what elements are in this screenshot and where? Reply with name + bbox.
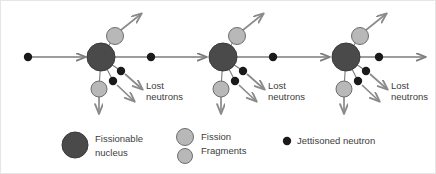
cluster-1-fragment-up-arrow bbox=[121, 14, 141, 30]
legend-swatch-jettisoned-neutron bbox=[283, 137, 291, 145]
legend-item-jettisoned-neutron: Jettisoned neutron bbox=[283, 135, 375, 146]
cluster-3-lost-neutron-arrow-0 bbox=[370, 74, 387, 89]
cluster-3-fragment-up-arrow bbox=[366, 14, 386, 30]
cluster-1-axis-neutron bbox=[147, 53, 155, 61]
legend-label-fission-fragments-line2: Fragments bbox=[201, 145, 247, 156]
cluster-3-axis-neutron bbox=[375, 53, 383, 61]
legend-swatch-fission-fragments-b bbox=[178, 149, 193, 164]
diagram-canvas: LostneutronsLostneutronsLostneutronsFiss… bbox=[1, 1, 436, 174]
legend: FissionablenucleusFissionFragmentsJettis… bbox=[62, 129, 375, 164]
legend-label-jettisoned-neutron-line1: Jettisoned neutron bbox=[297, 135, 375, 146]
cluster-2-jettisoned-neutron-1 bbox=[231, 77, 239, 85]
cluster-1-lost-neutrons-label-line1: Lost bbox=[146, 80, 164, 91]
cluster-2: Lostneutrons bbox=[209, 14, 329, 113]
cluster-3: Lostneutrons bbox=[332, 14, 428, 113]
cluster-3-fissionable-nucleus bbox=[332, 43, 360, 71]
cluster-1-jettisoned-neutron-1 bbox=[109, 77, 117, 85]
cluster-3-lost-neutrons-label-line1: Lost bbox=[391, 80, 409, 91]
cluster-2-fission-fragment-upper bbox=[229, 28, 246, 45]
cluster-2-lost-neutrons-label-line2: neutrons bbox=[268, 91, 305, 102]
cluster-1-lost-neutron-arrow-0 bbox=[125, 74, 142, 89]
legend-swatch-fissionable-nucleus bbox=[62, 132, 88, 158]
cluster-3-lost-neutron-arrow-1 bbox=[362, 85, 379, 101]
cluster-2-axis-neutron bbox=[269, 53, 277, 61]
cluster-1-jettisoned-neutron-0 bbox=[117, 67, 125, 75]
legend-item-fission-fragments: FissionFragments bbox=[177, 129, 247, 164]
cluster-2-lost-neutrons-label-line1: Lost bbox=[268, 80, 286, 91]
legend-label-fission-fragments-line1: Fission bbox=[201, 131, 231, 142]
cluster-1-incoming-neutron bbox=[24, 53, 32, 61]
legend-label-fissionable-nucleus-line1: Fissionable bbox=[95, 133, 143, 144]
cluster-3-fission-fragment-upper bbox=[352, 28, 369, 45]
cluster-3-lost-neutrons-label-line2: neutrons bbox=[391, 91, 428, 102]
cluster-2-jettisoned-neutron-0 bbox=[239, 67, 247, 75]
fission-chain-reaction-figure: LostneutronsLostneutronsLostneutronsFiss… bbox=[0, 0, 436, 174]
cluster-1-fissionable-nucleus bbox=[87, 43, 115, 71]
cluster-2-fissionable-nucleus bbox=[209, 43, 237, 71]
cluster-3-jettisoned-neutron-0 bbox=[362, 67, 370, 75]
cluster-1-fission-fragment-upper bbox=[107, 28, 124, 45]
legend-swatch-fission-fragments-a bbox=[177, 129, 194, 146]
cluster-1-lost-neutrons-label-line2: neutrons bbox=[146, 91, 183, 102]
cluster-3-fission-fragment-lower bbox=[336, 81, 352, 97]
cluster-2-fission-fragment-lower bbox=[213, 81, 229, 97]
cluster-1-fission-fragment-lower bbox=[91, 81, 107, 97]
legend-label-fissionable-nucleus-line2: nucleus bbox=[95, 147, 128, 158]
cluster-2-lost-neutron-arrow-1 bbox=[239, 85, 256, 101]
cluster-2-fragment-up-arrow bbox=[243, 14, 263, 30]
legend-item-fissionable-nucleus: Fissionablenucleus bbox=[62, 132, 143, 158]
cluster-1: Lostneutrons bbox=[24, 14, 206, 113]
cluster-1-lost-neutron-arrow-1 bbox=[117, 85, 134, 101]
cluster-2-lost-neutron-arrow-0 bbox=[247, 74, 264, 89]
cluster-3-jettisoned-neutron-1 bbox=[354, 77, 362, 85]
